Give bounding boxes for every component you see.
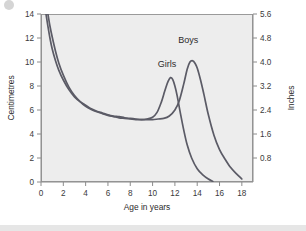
y-axis-tick-label: 2 — [29, 154, 34, 163]
growth-velocity-chart: 024681012140.81.62.43.24.04.85.602468101… — [0, 0, 306, 231]
y2-axis-tick-label: 4.0 — [260, 58, 272, 67]
y-axis-tick-label: 14 — [25, 10, 35, 19]
y-axis-tick-label: 4 — [29, 130, 34, 139]
y-axis-tick-label: 8 — [29, 82, 34, 91]
x-axis-tick-label: 0 — [39, 189, 44, 198]
x-axis-title: Age in years — [124, 202, 171, 212]
x-axis-tick-label: 6 — [106, 189, 111, 198]
y2-axis-tick-label: 3.2 — [260, 82, 272, 91]
y2-axis-tick-label: 0.8 — [260, 154, 272, 163]
y-axis-title: Centimetres — [6, 75, 16, 120]
x-axis-tick-label: 14 — [193, 189, 203, 198]
plot-background — [41, 14, 253, 182]
y2-axis-tick-label: 5.6 — [260, 10, 272, 19]
corner-decoration — [4, 0, 14, 10]
x-axis-tick-label: 4 — [83, 189, 88, 198]
x-axis-tick-label: 18 — [237, 189, 247, 198]
x-axis-tick-label: 10 — [148, 189, 158, 198]
y2-axis-tick-label: 1.6 — [260, 130, 272, 139]
y2-axis-tick-label: 4.8 — [260, 34, 272, 43]
y-axis-tick-label: 12 — [25, 34, 35, 43]
y2-axis-title: Inches — [286, 86, 296, 111]
y2-axis-tick-label: 2.4 — [260, 106, 272, 115]
x-axis-tick-label: 8 — [128, 189, 133, 198]
x-axis-tick-label: 16 — [215, 189, 225, 198]
series-label-boys: Boys — [178, 35, 199, 45]
y-axis-tick-label: 6 — [29, 106, 34, 115]
plot-area — [41, 14, 253, 182]
chart-canvas: 024681012140.81.62.43.24.04.85.602468101… — [0, 0, 306, 231]
x-axis-tick-label: 12 — [170, 189, 180, 198]
y-axis-tick-label: 0 — [29, 178, 34, 187]
series-label-girls: Girls — [158, 59, 177, 69]
footer-strip — [0, 225, 306, 231]
x-axis-tick-label: 2 — [61, 189, 66, 198]
y-axis-tick-label: 10 — [25, 58, 35, 67]
